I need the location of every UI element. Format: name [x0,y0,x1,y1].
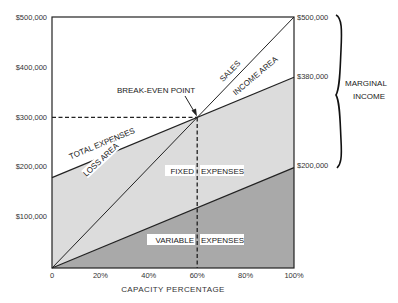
arrow-head-icon [192,109,198,117]
marginal-income-brace-icon [336,15,341,168]
break-even-label: BREAK-EVEN POINT [117,86,195,95]
marginal-label: MARGINAL [345,79,387,88]
fixed-label: FIXED [170,167,194,176]
right-tick-200k: $200,000 [297,161,328,170]
x-tick-100: 100% [284,271,304,280]
y-tick-300k: $300,000 [16,113,47,122]
x-tick-40: 40% [141,271,156,280]
break-even-chart: $500,000 $400,000 $300,000 $200,000 $100… [0,0,398,303]
x-tick-60: 60% [190,271,205,280]
y-tick-200k: $200,000 [16,162,47,171]
y-tick-500k: $500,000 [16,13,47,22]
right-tick-500k: $500,000 [297,13,328,22]
x-tick-80: 80% [238,271,253,280]
income-label: INCOME [353,92,385,101]
x-axis-title: CAPACITY PERCENTAGE [121,285,225,294]
y-tick-100k: $100,000 [16,212,47,221]
variable-expenses-label: EXPENSES [201,236,244,245]
x-tick-20: 20% [93,271,108,280]
sales-label: SALES [218,59,242,84]
y-tick-400k: $400,000 [16,63,47,72]
variable-label: VARIABLE [155,236,194,245]
x-tick-0: 0 [50,271,54,280]
fixed-expenses-label: EXPENSES [201,167,244,176]
right-tick-380k: $380,000 [297,72,328,81]
